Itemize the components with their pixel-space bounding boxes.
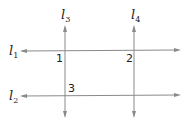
arrow-down-icon [63, 111, 67, 118]
label-l3: l3 [61, 7, 70, 24]
line-l1 [20, 48, 181, 53]
label-l4: l4 [131, 7, 140, 24]
angle-label-2: 2 [126, 52, 133, 65]
arrow-up-icon [63, 25, 67, 32]
line-l3 [63, 25, 67, 118]
line-l4 [132, 25, 136, 118]
arrow-up-icon [132, 25, 136, 32]
arrow-right-icon [174, 93, 181, 97]
arrow-left-icon [20, 94, 27, 98]
line-l2 [20, 93, 181, 98]
label-l2: l2 [9, 88, 18, 105]
angle-label-1: 1 [56, 52, 63, 65]
arrow-down-icon [132, 111, 136, 118]
label-l1: l1 [9, 43, 18, 60]
arrow-left-icon [20, 49, 27, 53]
parallel-lines-diagram: l1 l2 l3 l4 1 2 3 [0, 0, 194, 127]
arrow-right-icon [174, 48, 181, 52]
angle-label-3: 3 [68, 82, 75, 95]
